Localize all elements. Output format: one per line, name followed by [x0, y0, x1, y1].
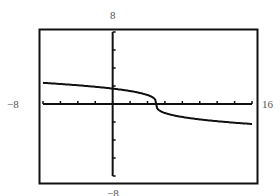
axes [43, 32, 252, 176]
calculator-graph-screen [0, 0, 280, 196]
screen-frame [40, 30, 258, 184]
